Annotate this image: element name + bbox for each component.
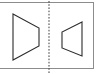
left-trapezoid-shape [13, 14, 39, 60]
screenshot-stage [0, 0, 99, 74]
right-trapezoid-shape [62, 22, 82, 56]
symmetry-figure-svg [0, 0, 99, 74]
